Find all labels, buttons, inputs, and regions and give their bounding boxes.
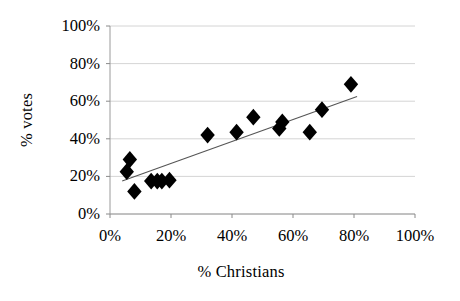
data-point-2 bbox=[127, 183, 141, 200]
plot-canvas bbox=[0, 0, 460, 301]
data-point-14 bbox=[344, 76, 358, 93]
scatter-chart: % votes % Christians 0%20%40%60%80%100% … bbox=[0, 0, 460, 301]
axes bbox=[106, 26, 415, 218]
data-points bbox=[120, 76, 359, 200]
data-point-13 bbox=[315, 101, 329, 118]
data-point-9 bbox=[246, 109, 260, 126]
data-point-1 bbox=[123, 151, 137, 168]
data-point-12 bbox=[303, 124, 317, 141]
data-point-7 bbox=[200, 127, 214, 144]
